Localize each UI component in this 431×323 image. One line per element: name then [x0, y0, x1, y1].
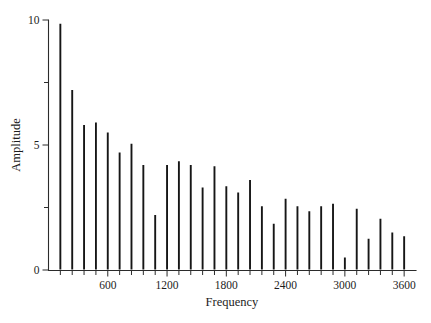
y-tick-label: 5: [34, 139, 40, 151]
x-tick-label: 1200: [156, 279, 179, 291]
y-tick-labels-group: 0510: [28, 14, 40, 276]
x-tick-label: 3600: [393, 279, 416, 291]
y-ticks-group: [43, 20, 49, 270]
x-axis-title: Frequency: [206, 295, 260, 309]
x-tick-label: 1800: [215, 279, 238, 291]
bars-group: [60, 24, 404, 270]
axes-group: [49, 20, 417, 271]
chart-canvas: 0510 60012001800240030003600 Frequency A…: [0, 0, 431, 323]
x-tick-labels-group: 60012001800240030003600: [99, 279, 416, 291]
y-axis-title: Amplitude: [9, 118, 23, 172]
x-tick-label: 600: [99, 279, 117, 291]
x-tick-label: 2400: [274, 279, 297, 291]
y-tick-label: 10: [28, 14, 40, 26]
x-ticks-group: [60, 271, 404, 277]
spectrum-chart: 0510 60012001800240030003600 Frequency A…: [0, 0, 431, 323]
y-tick-label: 0: [34, 264, 40, 276]
x-tick-label: 3000: [333, 279, 356, 291]
